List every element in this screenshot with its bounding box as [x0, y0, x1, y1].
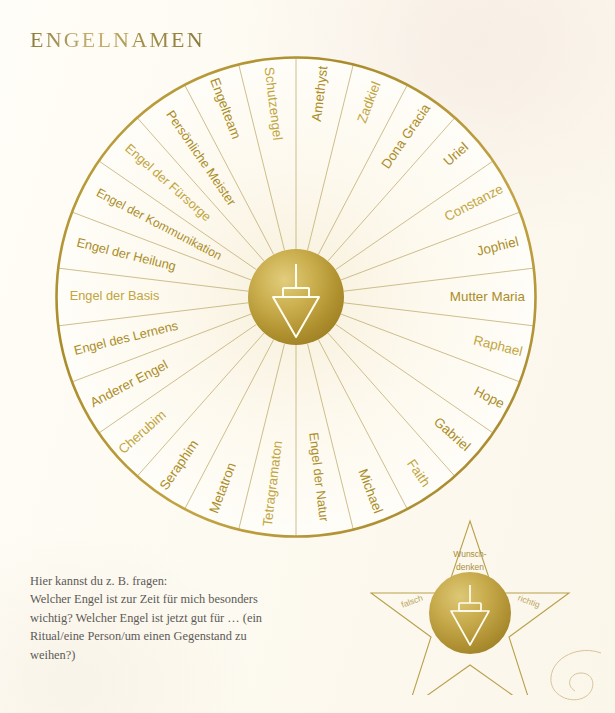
star-label-falsch: falsch — [400, 593, 425, 610]
instruction-paragraph: Hier kannst du z. B. fragen: Welcher Eng… — [30, 572, 320, 664]
wheel-segment-label[interactable]: Engel der Basis — [70, 288, 160, 303]
note-line: Ritual/eine Person/um einen Gegenstand z… — [30, 627, 320, 645]
pendulum-circle[interactable] — [429, 572, 511, 654]
wheel-segment-label[interactable]: Mutter Maria — [450, 289, 526, 304]
note-line: Hier kannst du z. B. fragen: — [30, 572, 320, 590]
star-label-wunschdenken-line2: denken — [456, 562, 484, 572]
note-line: Welcher Engel ist zur Zeit für mich beso… — [30, 590, 320, 608]
corner-flourish-ornament — [523, 643, 609, 709]
star-label-richtig: richtig — [517, 593, 542, 610]
note-line: weihen?) — [30, 646, 320, 664]
star-label-wunschdenken-line1: Wunsch- — [453, 549, 487, 559]
note-line: wichtig? Welcher Engel ist jetzt gut für… — [30, 609, 320, 627]
